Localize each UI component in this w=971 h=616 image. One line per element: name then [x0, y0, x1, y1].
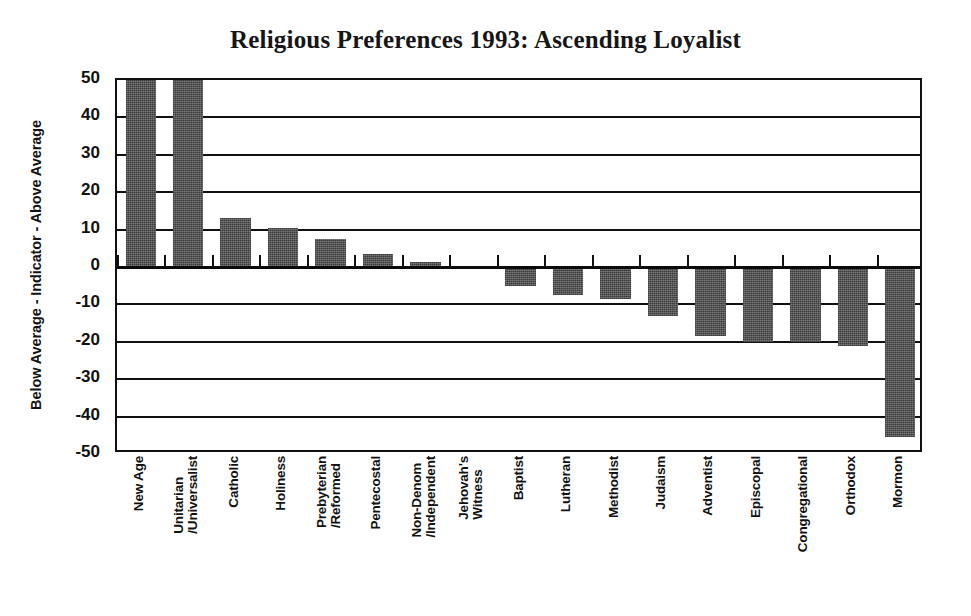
x-category-label-text: Mormon — [891, 456, 905, 508]
x-tick — [734, 255, 736, 267]
zero-baseline — [117, 266, 920, 269]
x-tick — [782, 255, 784, 267]
x-tick — [497, 255, 499, 267]
x-axis-category-labels: New AgeUnitarian /UniversalistCatholicHo… — [115, 456, 922, 612]
bar — [743, 267, 773, 342]
y-tick-label: -20 — [75, 330, 100, 350]
x-category-label-text: Orthodox — [844, 456, 858, 515]
x-category-label: Episcopal — [732, 456, 779, 608]
bar — [885, 267, 915, 437]
x-category-label-text: Judaism — [654, 456, 668, 509]
bar — [553, 267, 583, 295]
x-category-label: Jehovah's Witness — [447, 456, 494, 608]
chart-title: Religious Preferences 1993: Ascending Lo… — [0, 26, 971, 54]
x-category-label-text: Episcopal — [749, 456, 763, 518]
y-tick-label: 10 — [81, 218, 100, 238]
x-category-label-text: Baptist — [512, 456, 526, 500]
x-category-label-text: Catholic — [227, 456, 241, 508]
x-category-label-text: Adventist — [701, 456, 715, 516]
x-category-label: Mormon — [875, 456, 922, 608]
x-category-label-text: Holiness — [274, 456, 288, 511]
x-category-label-text: Non-Denom /Independent — [410, 456, 438, 538]
x-tick — [639, 255, 641, 267]
x-tick — [117, 255, 119, 267]
y-tick-label: -30 — [75, 367, 100, 387]
x-category-label-text: Methodist — [607, 456, 621, 518]
bar — [505, 267, 535, 286]
y-tick-label: 30 — [81, 143, 100, 163]
bar — [173, 78, 203, 267]
x-category-label: Methodist — [590, 456, 637, 608]
x-tick — [164, 255, 166, 267]
x-tick — [307, 255, 309, 267]
x-category-label: Holiness — [257, 456, 304, 608]
x-category-label-text: New Age — [132, 456, 146, 511]
x-category-label: New Age — [115, 456, 162, 608]
y-tick-label: -50 — [75, 442, 100, 462]
x-category-label-text: Jehovah's Witness — [457, 456, 485, 520]
x-category-label: Lutheran — [542, 456, 589, 608]
x-category-label-text: Pentecostal — [369, 456, 383, 530]
y-tick-label: 40 — [81, 105, 100, 125]
x-category-label-text: Unitarian /Universalist — [172, 456, 200, 534]
x-category-label: Unitarian /Universalist — [162, 456, 209, 608]
x-tick — [212, 255, 214, 267]
x-category-label: Congregational — [780, 456, 827, 608]
y-tick-label: 0 — [91, 255, 100, 275]
bar-series — [117, 80, 920, 450]
x-category-label: Adventist — [685, 456, 732, 608]
bar — [790, 267, 820, 342]
x-category-label: Non-Denom /Independent — [400, 456, 447, 608]
x-category-label: Judaism — [637, 456, 684, 608]
x-tick — [402, 255, 404, 267]
x-category-label: Orthodox — [827, 456, 874, 608]
x-category-label: Baptist — [495, 456, 542, 608]
x-category-label: Pentecostal — [352, 456, 399, 608]
x-tick — [687, 255, 689, 267]
y-axis-tick-labels: 50403020100-10-20-30-40-50 — [46, 78, 108, 452]
x-tick — [877, 255, 879, 267]
y-tick-label: -40 — [75, 405, 100, 425]
x-category-label: Catholic — [210, 456, 257, 608]
plot-area — [115, 78, 922, 452]
y-axis-title: Below Average - Indicator - Above Averag… — [26, 78, 46, 452]
y-tick-label: 50 — [81, 68, 100, 88]
y-tick-label: 20 — [81, 180, 100, 200]
x-tick — [259, 255, 261, 267]
bar — [600, 267, 630, 299]
bar — [648, 267, 678, 316]
bar — [126, 78, 156, 267]
y-tick-label: -10 — [75, 292, 100, 312]
x-tick — [829, 255, 831, 267]
bar — [220, 218, 250, 267]
bar — [838, 267, 868, 346]
x-category-label: Prebyterian /Reformed — [305, 456, 352, 608]
y-axis-title-text: Below Average - Indicator - Above Averag… — [28, 120, 44, 410]
bar — [315, 239, 345, 267]
bar — [695, 267, 725, 336]
x-tick — [592, 255, 594, 267]
bar — [268, 228, 298, 267]
x-category-label-text: Congregational — [796, 456, 810, 552]
x-tick — [449, 255, 451, 267]
x-tick — [354, 255, 356, 267]
x-category-label-text: Prebyterian /Reformed — [315, 456, 343, 528]
x-tick — [544, 255, 546, 267]
x-category-label-text: Lutheran — [559, 456, 573, 512]
